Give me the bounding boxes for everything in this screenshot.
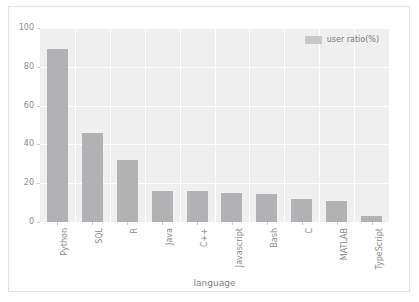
x-axis-tick-mark bbox=[372, 222, 373, 225]
legend: user ratio(%) bbox=[301, 34, 383, 46]
x-axis-tick-mark bbox=[337, 222, 338, 225]
x-axis-tick-mark bbox=[197, 222, 198, 225]
y-axis-tick-label: 60 bbox=[8, 102, 34, 110]
x-axis-tick-mark bbox=[57, 222, 58, 225]
x-axis-tick-label: Bash bbox=[271, 228, 279, 248]
legend-swatch-user-ratio bbox=[305, 36, 322, 44]
y-axis-tick-mark bbox=[37, 106, 40, 107]
y-axis-tick-mark bbox=[37, 144, 40, 145]
x-axis-tick-label: TypeScript bbox=[376, 228, 384, 270]
x-axis-tick-label: MATLAB bbox=[341, 228, 349, 260]
bar bbox=[326, 201, 347, 222]
y-axis-tick-label: 0 bbox=[8, 218, 34, 226]
x-axis-tick-mark bbox=[267, 222, 268, 225]
figure-canvas: user ratio(%) 020406080100 PythonSQLRJav… bbox=[0, 0, 419, 302]
bar bbox=[187, 191, 208, 222]
bar bbox=[47, 49, 68, 222]
bar bbox=[82, 133, 103, 222]
y-axis-tick-label: 20 bbox=[8, 179, 34, 187]
y-axis-tick-mark bbox=[37, 28, 40, 29]
x-axis-tick-mark bbox=[127, 222, 128, 225]
x-axis-tick-label: C++ bbox=[201, 228, 209, 247]
bar bbox=[256, 194, 277, 222]
y-axis-tick-label: 80 bbox=[8, 63, 34, 71]
x-axis-tick-mark bbox=[162, 222, 163, 225]
bar bbox=[152, 191, 173, 222]
x-axis-tick-label: R bbox=[131, 228, 139, 234]
x-axis-tick-mark bbox=[92, 222, 93, 225]
y-axis-tick-label: 40 bbox=[8, 140, 34, 148]
bar bbox=[117, 160, 138, 222]
y-axis-tick-label: 100 bbox=[8, 24, 34, 32]
x-axis-tick-label: SQL bbox=[96, 228, 104, 244]
x-axis-tick-mark bbox=[302, 222, 303, 225]
x-axis-title: language bbox=[40, 278, 389, 288]
y-axis-tick-mark bbox=[37, 222, 40, 223]
x-axis-tick-label: Javascript bbox=[236, 228, 244, 267]
bar bbox=[221, 193, 242, 222]
x-axis-tick-label: Java bbox=[166, 228, 174, 245]
y-axis-tick-mark bbox=[37, 183, 40, 184]
x-axis-tick-label: Python bbox=[61, 228, 69, 256]
bar bbox=[291, 199, 312, 222]
x-axis-tick-label: C bbox=[306, 228, 314, 234]
x-axis-tick-mark bbox=[232, 222, 233, 225]
plot-area: user ratio(%) bbox=[40, 28, 389, 222]
bar-series bbox=[40, 28, 389, 222]
y-axis-tick-mark bbox=[37, 67, 40, 68]
legend-label-user-ratio: user ratio(%) bbox=[327, 36, 379, 44]
